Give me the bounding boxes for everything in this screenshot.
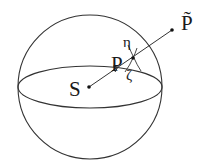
label-P-tilde: P̃: [181, 13, 193, 34]
label-S: S: [69, 79, 81, 100]
label-P: P: [111, 54, 123, 75]
point-P-tilde-dot: [170, 28, 174, 32]
point-S-dot: [87, 85, 91, 89]
diagram-canvas: S P η ζ P̃: [0, 0, 208, 164]
label-zeta: ζ: [126, 68, 132, 83]
point-P-dot: [131, 56, 135, 60]
label-eta: η: [123, 35, 131, 50]
sphere-diagram: [0, 0, 208, 164]
